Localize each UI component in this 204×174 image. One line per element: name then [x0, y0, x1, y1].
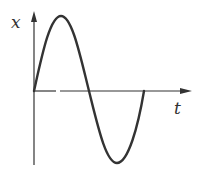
sine-wave-diagram: x t	[0, 0, 204, 174]
sine-curve	[34, 16, 144, 163]
x-axis-arrow-icon	[180, 88, 192, 94]
x-axis-label: t	[174, 98, 181, 118]
y-axis-label: x	[11, 12, 21, 32]
y-axis-arrow-icon	[31, 11, 37, 22]
